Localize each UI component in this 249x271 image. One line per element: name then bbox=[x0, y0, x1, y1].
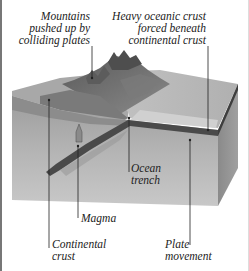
label-mountains: Mountains pushed up by colliding plates bbox=[4, 10, 90, 46]
label-heavy-oceanic-crust: Heavy oceanic crust forced beneath conti… bbox=[104, 10, 206, 46]
label-continental-crust: Continental crust bbox=[52, 238, 132, 262]
label-plate-movement: Plate movement bbox=[165, 238, 245, 262]
label-ocean-trench: Ocean trench bbox=[131, 162, 191, 186]
label-magma: Magma bbox=[81, 212, 141, 224]
